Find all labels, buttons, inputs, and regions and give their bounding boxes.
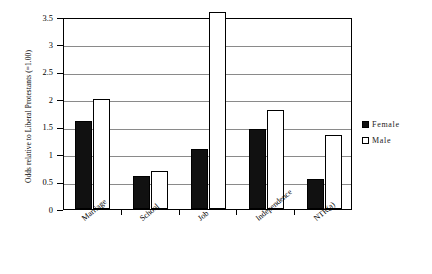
y-tick-label: 1 [3,151,53,160]
legend-item-female: Female [362,118,400,131]
gridline [64,74,351,75]
y-tick-mark [57,210,63,211]
y-tick-label: 0 [3,206,53,215]
bar-job-male [209,12,226,209]
bar-job-female [191,149,208,209]
legend-swatch-male [362,137,369,144]
bar-chart: Odds relative to Liberal Protestants (=1… [0,0,432,274]
x-tick-mark [236,210,237,215]
y-tick-label: 3.5 [3,14,53,23]
y-tick-label: 2.5 [3,68,53,77]
bar-marriage-male [93,99,110,209]
gridline [64,46,351,47]
x-tick-mark [121,210,122,215]
plot-area [63,18,352,210]
legend-item-male: Male [362,134,400,147]
y-tick-label: 3 [3,41,53,50]
y-tick-label: 2 [3,96,53,105]
bar-marriage-female [75,121,92,209]
bar-ntr-a--male [325,135,342,209]
y-tick-label: 0.5 [3,178,53,187]
x-tick-mark [179,210,180,215]
legend-swatch-female [362,121,369,128]
bar-school-female [133,176,150,209]
legend: FemaleMale [362,118,400,150]
y-tick-label: 1.5 [3,123,53,132]
bar-independence-female [249,129,266,209]
legend-label-male: Male [372,134,391,147]
x-tick-mark [294,210,295,215]
legend-label-female: Female [372,118,400,131]
bar-ntr-a--female [307,179,324,209]
